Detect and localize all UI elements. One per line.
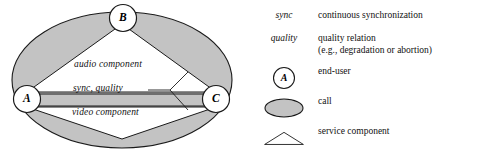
sync-quality-band [27,94,216,106]
legend: sync continuous synchronization quality … [250,0,478,159]
legend-text-quality: quality relation (e.g., degradation or a… [318,33,432,56]
legend-row-end-user: A end-user [250,66,351,90]
legend-row-service-component: service component [250,126,390,150]
legend-sync-line1: continuous synchronization [318,10,423,22]
node-c-label: C [212,93,220,105]
call-ellipse-shape [263,97,305,119]
legend-row-quality: quality quality relation (e.g., degradat… [250,33,432,56]
legend-sync-symbol-label: sync [276,10,293,20]
legend-call-line1: call [318,96,332,108]
legend-text-end-user: end-user [318,66,351,78]
legend-text-call: call [318,96,332,108]
service-component-triangle-shape [263,127,305,149]
legend-end-user-line1: end-user [318,66,351,78]
legend-symbol-sync-text: sync [250,10,318,20]
legend-text-sync: continuous synchronization [318,10,423,22]
legend-row-call: call [250,96,332,120]
legend-symbol-end-user: A [250,66,318,90]
call-structure-diagram: A B C audio component sync, quality vide… [0,0,248,159]
legend-symbol-service-component [250,126,318,150]
node-b-label: B [119,12,127,24]
legend-row-sync: sync continuous synchronization [250,10,423,22]
end-user-node-icon: A [263,66,305,90]
legend-symbol-quality-text: quality [250,33,318,43]
legend-quality-symbol-label: quality [271,33,297,43]
figure-root: A B C audio component sync, quality vide… [0,0,478,159]
call-ellipse-icon [263,96,305,120]
node-a-label: A [23,93,31,105]
audio-component-label: audio component [74,60,142,70]
legend-service-component-line1: service component [318,126,390,138]
legend-quality-line2: (e.g., degradation or abortion) [318,45,432,57]
end-user-circle-shape [269,66,299,90]
legend-text-service-component: service component [318,126,390,138]
video-component-label: video component [72,108,139,118]
sync-quality-label: sync, quality [73,84,123,94]
service-component-triangle-icon [263,126,305,150]
diagram-svg [0,0,248,159]
legend-quality-line1: quality relation [318,33,432,45]
legend-symbol-call [250,96,318,120]
